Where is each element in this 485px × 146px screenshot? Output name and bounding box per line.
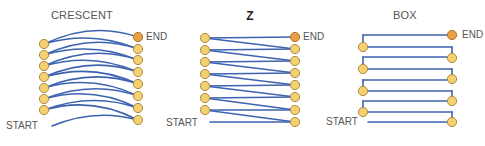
z-right-node — [290, 105, 299, 114]
crescent-left-node — [39, 61, 48, 70]
z-left-node — [200, 45, 209, 54]
z-horizontal — [205, 37, 295, 38]
crescent-right-node — [133, 115, 142, 124]
z-right-node — [290, 56, 299, 65]
crescent-arc-back — [44, 60, 138, 72]
box-left-node — [358, 107, 367, 116]
crescent-left-node — [39, 50, 48, 59]
box-left-node — [358, 86, 367, 95]
z-horizontal — [205, 73, 295, 74]
z-diagonal — [205, 74, 295, 85]
crescent-arc-back — [44, 105, 138, 120]
crescent-arc-back — [44, 38, 138, 49]
z-horizontal — [205, 97, 295, 98]
z-diagonal — [205, 62, 295, 73]
z-right-node — [290, 80, 299, 89]
crescent-left-node — [39, 72, 48, 81]
z-right-node — [290, 92, 299, 101]
z-diagonal — [205, 86, 295, 97]
box-end-node — [447, 30, 456, 39]
crescent-right-node — [133, 67, 142, 76]
z-diagonal — [205, 50, 295, 61]
z-right-node — [290, 68, 299, 77]
z-left-node — [200, 57, 209, 66]
box-right-node — [447, 117, 456, 126]
crescent-left-node — [39, 39, 48, 48]
z-left-node — [200, 69, 209, 78]
z-horizontal — [205, 85, 295, 86]
z-end-node — [290, 32, 299, 41]
z-left-node — [200, 81, 209, 90]
crescent-left-node — [39, 105, 48, 114]
box-right-node — [447, 96, 456, 105]
z-diagonal — [205, 98, 295, 110]
z-left-node — [200, 33, 209, 42]
crescent-right-node — [133, 103, 142, 112]
crescent-right-node — [133, 79, 142, 88]
box-right-node — [447, 74, 456, 83]
crescent-arc-back — [44, 49, 138, 60]
box-left-node — [358, 64, 367, 73]
crescent-left-node — [39, 94, 48, 103]
z-right-node — [290, 44, 299, 53]
z-diagonal — [205, 110, 295, 122]
z-diagonal — [205, 38, 295, 49]
crescent-start-path — [52, 115, 138, 126]
crescent-right-node — [133, 55, 142, 64]
z-horizontal — [205, 61, 295, 62]
crescent-right-node — [133, 91, 142, 100]
box-left-node — [358, 42, 367, 51]
z-left-node — [200, 105, 209, 114]
z-right-node — [290, 117, 299, 126]
crescent-end-node — [133, 32, 142, 41]
crescent-left-node — [39, 83, 48, 92]
crescent-right-node — [133, 44, 142, 53]
z-left-node — [200, 93, 209, 102]
pattern-diagrams — [0, 0, 485, 146]
box-right-node — [447, 53, 456, 62]
z-horizontal — [205, 49, 295, 50]
